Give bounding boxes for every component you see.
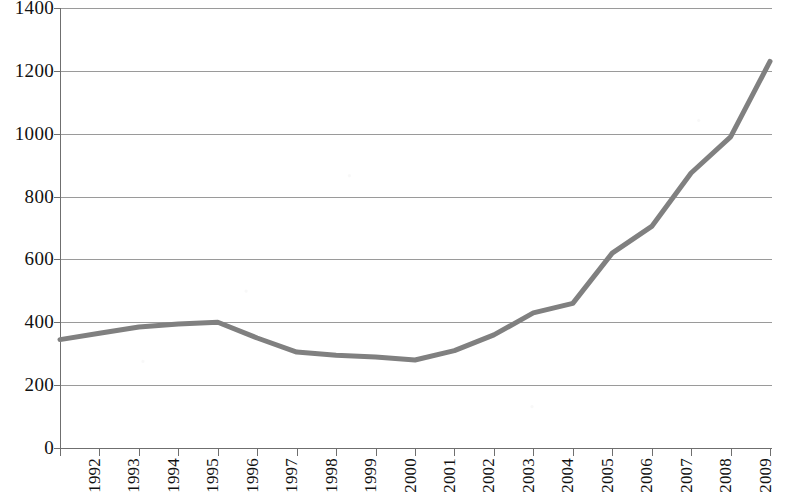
x-tick-label: 2007 [678,458,695,493]
x-tick-mark [494,449,495,456]
x-tick-label: 2008 [717,458,734,493]
x-tick-mark [770,449,771,456]
x-tick-label: 2004 [559,458,576,493]
y-tick-label: 1400 [0,0,54,17]
x-tick-label: 2002 [480,458,497,493]
gridline [61,197,772,198]
gridline [61,385,772,386]
x-tick-mark [731,449,732,456]
y-tick-label: 1000 [0,124,54,143]
x-axis-line [60,448,772,449]
gridline [61,8,772,9]
y-tick-label: 600 [0,249,54,268]
x-tick-label: 2005 [599,458,616,493]
x-tick-label: 1998 [323,458,340,493]
gridline [61,134,772,135]
x-tick-label: 1996 [244,458,261,493]
series-layer [0,0,794,502]
x-tick-mark [297,449,298,456]
y-tick-label: 400 [0,312,54,331]
x-tick-mark [415,449,416,456]
x-tick-mark [376,449,377,456]
x-tick-mark [533,449,534,456]
x-tick-label: 2006 [638,458,655,493]
y-tick-label: 800 [0,187,54,206]
gridline [61,71,772,72]
x-tick-mark [652,449,653,456]
x-tick-mark [139,449,140,456]
x-tick-mark [691,449,692,456]
x-tick-label: 2009 [757,458,774,493]
x-tick-mark [60,449,61,456]
x-tick-mark [612,449,613,456]
x-tick-label: 2003 [520,458,537,493]
x-tick-label: 2001 [441,458,458,493]
x-tick-label: 1992 [86,458,103,493]
x-tick-label: 1995 [204,458,221,493]
line-chart: 0200400600800100012001400 19921993199419… [0,0,794,502]
x-tick-mark [99,449,100,456]
x-tick-mark [336,449,337,456]
x-tick-label: 2000 [402,458,419,493]
gridline [61,322,772,323]
gridline [61,259,772,260]
x-tick-mark [454,449,455,456]
x-tick-mark [573,449,574,456]
x-tick-mark [257,449,258,456]
scan-noise-overlay [0,0,794,502]
y-tick-label: 1200 [0,61,54,80]
data-series-line [60,61,770,360]
y-tick-label: 200 [0,375,54,394]
x-tick-mark [178,449,179,456]
x-tick-label: 1994 [165,458,182,493]
x-tick-label: 1993 [125,458,142,493]
x-tick-label: 1999 [362,458,379,493]
x-tick-label: 1997 [283,458,300,493]
y-axis-line [60,8,61,449]
x-tick-mark [218,449,219,456]
y-tick-label: 0 [0,438,54,457]
